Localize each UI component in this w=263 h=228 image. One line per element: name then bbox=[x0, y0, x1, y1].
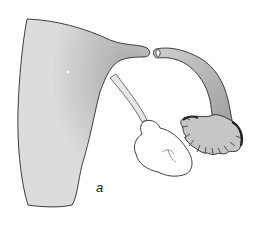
uterus-body bbox=[18, 19, 150, 207]
ovarian-ligament bbox=[110, 74, 147, 122]
fimbriae bbox=[181, 115, 241, 155]
tube-opening bbox=[156, 50, 160, 57]
highlight-dot bbox=[67, 71, 70, 74]
figure-label: a bbox=[96, 181, 103, 194]
anatomical-illustration bbox=[0, 0, 263, 228]
